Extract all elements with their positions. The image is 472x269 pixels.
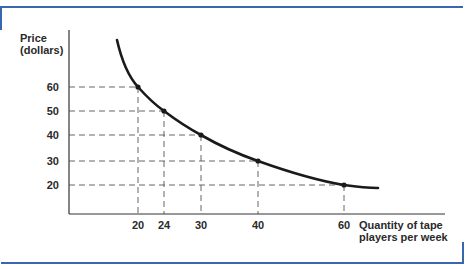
x-tick-40: 40: [252, 219, 264, 231]
y-tick-30: 30: [47, 155, 59, 167]
data-points: [135, 84, 346, 187]
x-tick-30: 30: [195, 219, 207, 231]
y-axis-label-line2: (dollars): [20, 44, 64, 56]
y-tick-40: 40: [47, 129, 59, 141]
reference-lines: [69, 87, 344, 214]
x-axis-label-line2: players per week: [359, 231, 449, 243]
demand-curve: [117, 40, 378, 188]
y-tick-20: 20: [47, 179, 59, 191]
x-tick-60: 60: [338, 219, 350, 231]
x-tick-24: 24: [158, 219, 171, 231]
y-tick-60: 60: [47, 81, 59, 93]
y-axis-label-line1: Price: [20, 32, 47, 44]
demand-chart: Price (dollars) 60 50 40 30 20 20 24 30 …: [0, 0, 472, 269]
y-tick-50: 50: [47, 105, 59, 117]
x-tick-20: 20: [132, 219, 144, 231]
x-axis-label-line1: Quantity of tape: [359, 219, 443, 231]
axes: [69, 30, 445, 214]
